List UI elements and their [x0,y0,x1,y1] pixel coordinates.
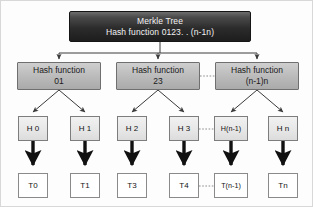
hash-function-node-01-line1: Hash function [33,65,85,76]
hash-function-node-23-line2: 23 [153,76,162,87]
hash-function-node-01-line2: 01 [54,76,63,87]
transaction-tn: Tn [268,173,298,198]
leaf-hash-h1: H 1 [70,116,100,141]
root-to-bus-connector [59,42,257,59]
hash1-to-leaves-connector [33,90,85,112]
merkle-root-node: Merkle Tree Hash function 0123. . (n-1n) [69,11,251,42]
leaf-hash-h0: H 0 [18,116,48,141]
hash-function-node-01: Hash function 01 [17,62,101,90]
transaction-t0: T0 [18,173,48,198]
transaction-t4: T4 [169,173,199,198]
merkle-root-subtitle: Hash function 0123. . (n-1n) [106,27,214,37]
merkle-root-title: Merkle Tree [137,16,183,26]
leaf-hash-hn-1: H(n-1) [214,116,248,141]
hash-function-node-n1n-line1: Hash function [231,65,283,76]
merkle-tree-diagram: Merkle Tree Hash function 0123. . (n-1n)… [0,0,313,207]
leaf-hash-hn: H n [268,116,298,141]
transaction-t3: T3 [117,173,147,198]
hash-function-node-23-line1: Hash function [132,65,184,76]
transaction-tn-1: T(n-1) [214,173,248,198]
hash2-to-leaves-connector [132,90,184,112]
hash-function-node-23: Hash function 23 [116,62,200,90]
leaf-to-transaction-arrows [33,141,283,165]
hash3-to-leaves-connector [231,90,283,112]
hash-function-node-n1n: Hash function (n-1)n [215,62,299,90]
hash-function-node-n1n-line2: (n-1)n [246,76,269,87]
transaction-t1: T1 [70,173,100,198]
leaf-hash-h3: H 3 [169,116,199,141]
leaf-hash-h2: H 2 [117,116,147,141]
